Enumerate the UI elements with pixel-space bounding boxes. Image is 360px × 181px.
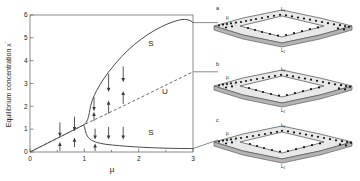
panel-a-label-top: L₁ [281,7,286,12]
x-tick-2: 2 [137,155,141,162]
bifurcation-figure: 0 1 2 3 4 5 6 0 1 2 3 μ Equilibrium conc… [0,0,360,181]
panel-b-label-bottom: L₂ [281,108,286,113]
panel-a-label-left: µ [226,15,229,20]
y-tick-4: 4 [24,57,28,64]
x-axis-label: μ [110,165,115,174]
y-tick-6: 6 [24,11,28,18]
panel-b-label: b [216,61,219,67]
y-axis-label: Equilibrium concentration x˙ [5,41,13,127]
y-tick-1: 1 [24,125,28,132]
panel-c-label-top: L₁ [281,123,286,128]
y-tick-5: 5 [24,34,28,41]
panel-b-label-top: L₁ [281,67,286,72]
panel-c-label-left: µ [226,131,229,136]
y-tick-3: 3 [24,80,28,87]
x-tick-3: 3 [191,155,195,162]
y-tick-2: 2 [24,103,28,110]
label-stable-lower: S [148,128,153,137]
panel-b-label-left: µ [226,75,229,80]
label-unstable-middle: U [162,87,168,96]
x-tick-1: 1 [82,155,86,162]
panel-c-label: c [216,117,219,123]
panel-c-label-bottom: L₂ [281,164,286,169]
label-stable-upper: S [148,39,153,48]
panel-a-label-bottom: L₂ [281,48,286,53]
x-tick-0: 0 [28,155,32,162]
